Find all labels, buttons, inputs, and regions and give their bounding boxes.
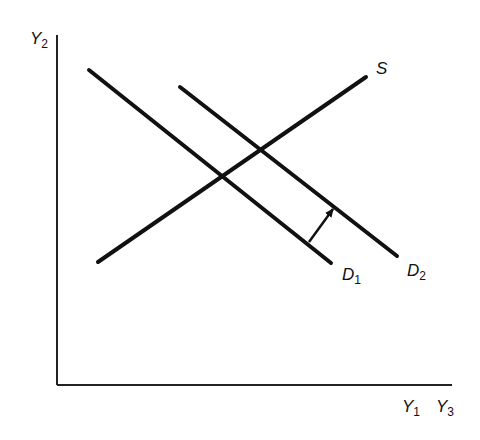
supply-curve-s	[98, 77, 366, 262]
x-axis-label-y3: Y3	[436, 398, 454, 418]
s-label: S	[376, 60, 387, 77]
d2-label: D2	[407, 262, 426, 282]
shift-arrow	[309, 209, 333, 242]
d1-label: D1	[342, 266, 361, 286]
diagram-canvas	[0, 0, 480, 440]
y-axis-label: Y2	[30, 30, 48, 50]
x-axis-label-y1: Y1	[402, 398, 420, 418]
demand-curve-d1	[89, 70, 331, 263]
